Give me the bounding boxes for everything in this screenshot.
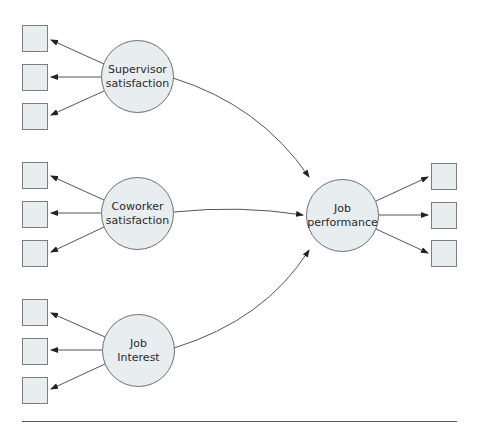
indicator-box-interest-2 [22,338,48,365]
node-label: Supervisor satisfaction [106,63,169,91]
arrow-performance-indicator-1 [376,177,428,201]
indicator-box-performance-2 [431,202,457,229]
indicator-box-performance-1 [431,163,457,190]
indicator-box-coworker-2 [22,201,48,228]
latent-node-coworker-satisfaction: Coworker satisfaction [101,177,174,250]
connector-layer [0,0,480,430]
node-label: Job performance [307,202,377,230]
indicator-box-interest-3 [22,377,48,404]
latent-node-job-performance: Job performance [306,179,379,252]
node-label: Coworker satisfaction [106,200,169,228]
arrow-coworker-indicator-1 [51,176,104,200]
bottom-rule-divider [22,421,457,422]
arrow-interest-indicator-3 [51,364,105,389]
arrow-coworker-indicator-3 [51,227,104,252]
indicator-box-supervisor-2 [22,64,48,91]
node-label: Job Interest [117,337,159,365]
indicator-box-performance-3 [431,240,457,267]
sem-diagram: Supervisor satisfaction Coworker satisfa… [0,0,480,430]
path-supervisor-to-performance [173,78,309,177]
path-interest-to-performance [174,250,309,348]
indicator-box-coworker-1 [22,162,48,189]
arrow-interest-indicator-1 [51,313,105,337]
indicator-box-supervisor-1 [22,25,48,52]
indicator-box-coworker-3 [22,240,48,267]
indicator-box-interest-1 [22,299,48,326]
arrow-supervisor-indicator-3 [51,91,104,115]
indicator-box-supervisor-3 [22,103,48,130]
arrow-performance-indicator-3 [376,229,428,253]
latent-node-supervisor-satisfaction: Supervisor satisfaction [101,40,174,113]
arrow-supervisor-indicator-1 [51,40,104,64]
latent-node-job-interest: Job Interest [102,314,175,387]
path-coworker-to-performance [174,209,303,215]
